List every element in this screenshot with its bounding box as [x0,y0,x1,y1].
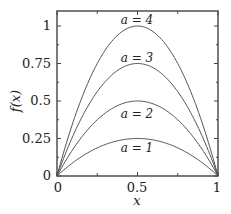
curve-label-a4: a = 4 [121,13,153,27]
y-tick-label-0: 0 [43,168,51,183]
curve-label-a2: a = 2 [121,107,153,121]
y-tick-label-0.25: 0.25 [22,131,51,146]
curve-label-a3: a = 3 [121,51,154,65]
chart-svg: 1 0.75 0.5 0.25 0 0 0.5 1 x f(x) a = 4 a… [0,0,231,214]
x-tick-label-0: 0 [54,180,62,195]
y-axis-label: f(x) [8,90,23,113]
y-tick-label-0.5: 0.5 [30,93,51,108]
y-tick-label-0.75: 0.75 [22,56,51,71]
x-tick-label-1: 1 [213,180,221,195]
y-tick-label-1: 1 [43,18,51,33]
curve-label-a1: a = 1 [121,141,153,155]
chart-container: 1 0.75 0.5 0.25 0 0 0.5 1 x f(x) a = 4 a… [0,0,231,214]
x-axis-label: x [133,193,141,208]
